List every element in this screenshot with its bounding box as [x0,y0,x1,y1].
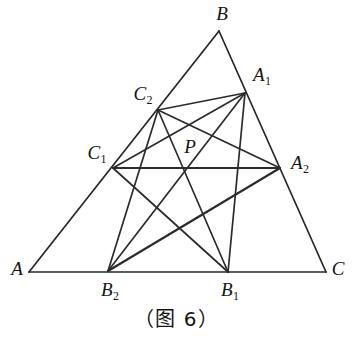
point-label-b: B [216,4,228,23]
point-label-c: C [332,259,345,278]
point-label-b1-subscript: 1 [233,289,239,303]
point-label-c2-subscript: 2 [147,93,153,107]
point-label-b-letter: B [216,3,228,24]
geometry-figure: ABCA1A2B1B2C1C2P （图 6） [0,0,353,356]
figure-caption: （图 6） [0,303,353,332]
point-label-a-letter: A [11,258,23,279]
chord-A2-B2 [108,168,280,271]
point-label-a: A [11,259,23,278]
point-label-c2: C2 [133,84,152,106]
point-label-a2-subscript: 2 [303,162,309,176]
point-label-b2-letter: B [101,279,113,300]
point-label-c1-letter: C [87,142,100,163]
point-label-a1-letter: A [253,64,265,85]
side-BC [219,31,326,272]
point-label-a2-letter: A [291,152,303,173]
point-label-c1: C1 [87,143,106,165]
point-label-c1-subscript: 1 [101,152,107,166]
cevian-chords-group [108,93,280,272]
point-label-c-letter: C [332,258,345,279]
point-label-p: P [184,137,196,156]
chord-C2-B1 [158,110,228,272]
point-label-c2-letter: C [133,83,146,104]
point-label-b2-subscript: 2 [113,289,119,303]
point-label-a1-subscript: 1 [265,74,271,88]
chord-C2-A2 [158,110,280,168]
point-label-b2: B2 [101,280,119,302]
point-label-b1: B1 [221,280,239,302]
point-label-a1: A1 [253,65,271,87]
chord-C2-B2 [108,110,158,271]
chord-A1-B1 [228,93,245,272]
triangle-sides-group [29,31,326,272]
chord-C2-A1 [158,93,245,110]
point-label-b1-letter: B [221,279,233,300]
point-label-p-letter: P [184,136,196,157]
point-label-a2: A2 [291,153,309,175]
